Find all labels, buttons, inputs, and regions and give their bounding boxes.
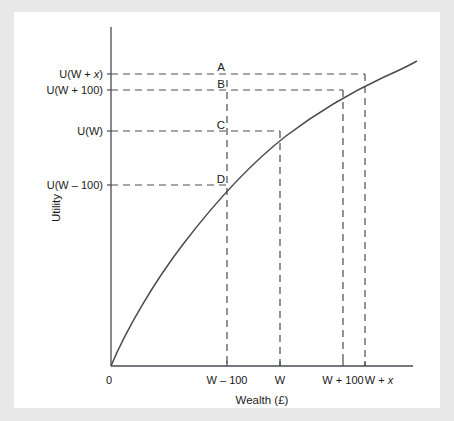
y-tick-label-u-w-plus-100: U(W + 100) <box>46 84 103 96</box>
x-tick-label-w-plus-100: W + 100 <box>322 374 363 386</box>
point-annotations: A B C D <box>217 61 226 185</box>
point-label-c: C <box>217 119 225 131</box>
utility-wealth-chart: U(W + x) U(W + 100) U(W) U(W – 100) 0 <box>14 12 440 408</box>
x-axis-ticks <box>227 361 365 366</box>
horizontal-reference-lines <box>111 74 365 185</box>
utility-curve <box>111 61 417 366</box>
vertical-reference-lines <box>227 74 365 366</box>
x-tick-label-w: W <box>275 374 286 386</box>
point-label-d: D <box>217 173 225 185</box>
point-label-a: A <box>217 61 225 73</box>
x-tick-label-w-minus-100: W – 100 <box>207 374 248 386</box>
y-tick-label-u-w-minus-100: U(W – 100) <box>47 179 103 191</box>
y-tick-label-u-w-plus-x: U(W + x) <box>59 68 103 80</box>
axes-group <box>111 27 413 366</box>
x-tick-label-origin: 0 <box>106 374 112 386</box>
x-axis-title: Wealth (£) <box>236 394 289 406</box>
y-axis-title: Utility <box>50 194 62 222</box>
figure-container: U(W + x) U(W + 100) U(W) U(W – 100) 0 <box>0 0 454 421</box>
y-tick-label-u-w: U(W) <box>77 125 103 137</box>
y-axis-tick-labels: U(W + x) U(W + 100) U(W) U(W – 100) <box>46 68 103 191</box>
x-axis-tick-labels: 0 W – 100 W W + 100 W + x <box>106 374 394 386</box>
x-tick-label-w-plus-x: W + x <box>365 374 394 386</box>
point-label-b: B <box>217 78 225 90</box>
chart-panel: U(W + x) U(W + 100) U(W) U(W – 100) 0 <box>14 12 440 408</box>
